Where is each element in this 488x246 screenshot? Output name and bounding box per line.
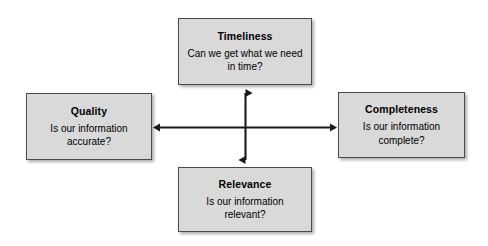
node-title-relevance: Relevance (219, 178, 272, 191)
node-title-quality: Quality (71, 105, 107, 118)
node-box-completeness: Completeness Is our information complete… (338, 92, 465, 158)
node-box-quality: Quality Is our information accurate? (26, 93, 152, 160)
node-title-timeliness: Timeliness (217, 30, 272, 43)
node-question-completeness: Is our information complete? (345, 120, 458, 146)
node-question-timeliness: Can we get what we need in time? (185, 47, 305, 73)
node-question-quality: Is our information accurate? (33, 122, 145, 148)
node-title-completeness: Completeness (365, 103, 438, 116)
node-question-relevance: Is our information relevant? (185, 195, 305, 221)
node-box-timeliness: Timeliness Can we get what we need in ti… (178, 18, 312, 85)
node-box-relevance: Relevance Is our information relevant? (178, 167, 312, 232)
diagram-canvas: Timeliness Can we get what we need in ti… (0, 0, 488, 246)
